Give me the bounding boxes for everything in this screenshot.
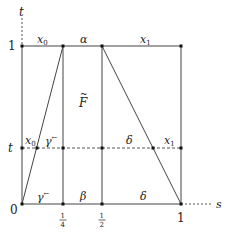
diagonal-left — [22, 46, 63, 204]
label-delta-bottom: δ — [140, 190, 147, 203]
tick-x-quarter-den: 4 — [61, 221, 66, 229]
tick-origin: 0 — [10, 203, 18, 217]
tick-x-half-den: 2 — [100, 221, 104, 229]
label-gamma-bottom: γ← — [37, 190, 50, 204]
label-x0-mid: x0 — [25, 134, 36, 148]
tilde-accent: ~ — [80, 89, 88, 99]
label-delta-mid: δ — [126, 134, 133, 147]
label-gamma-mid: γ← — [45, 134, 58, 148]
t-axis-label: t — [19, 5, 24, 19]
tick-x-half-num: 1 — [100, 212, 104, 220]
tick-y-1: 1 — [8, 39, 16, 53]
s-axis-label: s — [216, 198, 222, 211]
label-x0-top: x0 — [37, 33, 48, 47]
tick-y-t: t — [8, 141, 13, 155]
homotopy-diagram: t s 1 t 0 1 4 1 2 1 x0 α x1 F ~ x0 γ← δ … — [0, 0, 227, 238]
diagonal-right — [102, 46, 181, 204]
label-x1-top: x1 — [140, 33, 151, 47]
label-beta: β — [79, 190, 86, 203]
tick-x-1: 1 — [177, 211, 185, 225]
label-alpha: α — [80, 33, 88, 46]
tick-x-quarter-num: 1 — [61, 212, 65, 220]
label-x1-mid: x1 — [164, 134, 175, 148]
